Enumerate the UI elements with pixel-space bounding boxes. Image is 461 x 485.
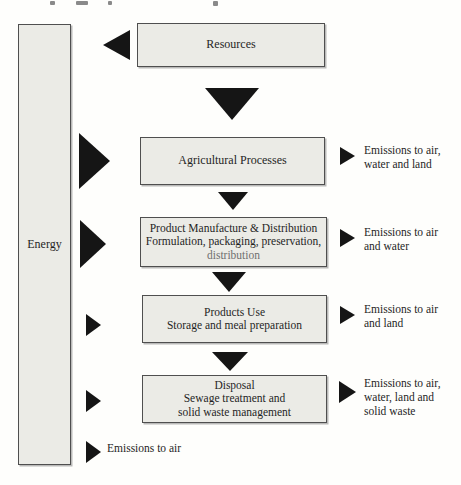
emission-arrow-disposal-icon [339,381,356,403]
energy-box: Energy [18,24,71,465]
resources-box: Resources [137,23,325,67]
disposal-line3: solid waste management [178,406,291,420]
energy-arrow-manufacture-icon [80,220,106,268]
emission-arrow-manufacture-icon [340,229,355,247]
arrow-left-resources-to-energy-icon [103,30,130,60]
clipped-caption-fragment [76,1,88,5]
disposal-title: Disposal [214,379,254,393]
arrow-down-use-to-disposal-icon [212,352,248,371]
clipped-caption-fragment [108,1,112,5]
clipped-caption-fragment [213,1,218,6]
emissions-label-manufacture: Emissions to air and water [364,225,460,253]
emissions-label-use: Emissions to air and land [364,302,460,330]
emissions-label-disposal: Emissions to air, water, land and solid … [364,376,460,418]
manufacture-title: Product Manufacture & Distribution [150,222,318,236]
resources-label: Resources [206,38,255,52]
emission-arrow-agricultural-icon [340,147,355,165]
energy-arrow-use-icon [86,314,101,336]
arrow-down-agricultural-to-manufacture-icon [218,192,248,210]
products-use-box: Products Use Storage and meal preparatio… [142,295,327,343]
agricultural-label: Agricultural Processes [178,154,286,168]
manufacture-line2: Formulation, packaging, preservation, [146,235,321,249]
clipped-caption-fragment [50,1,55,5]
energy-arrow-emissions-icon [86,441,101,463]
energy-label: Energy [27,238,61,252]
emission-arrow-use-icon [340,306,355,324]
lifecycle-flowchart-figure: Energy Resources Agricultural Processes … [0,0,461,485]
arrow-down-resources-to-agricultural-icon [205,88,259,120]
product-manufacture-box: Product Manufacture & Distribution Formu… [140,217,327,267]
manufacture-line3: distribution [207,249,260,263]
use-line2: Storage and meal preparation [167,319,302,333]
disposal-box: Disposal Sewage treatment and solid wast… [142,375,327,423]
arrow-down-manufacture-to-use-icon [212,272,246,292]
energy-arrow-disposal-icon [86,390,101,412]
emissions-label-energy: Emissions to air [107,442,181,454]
agricultural-processes-box: Agricultural Processes [140,137,325,185]
use-title: Products Use [204,306,265,320]
energy-arrow-agricultural-icon [79,133,110,189]
disposal-line2: Sewage treatment and [184,392,286,406]
emissions-label-agricultural: Emissions to air, water and land [364,143,460,171]
